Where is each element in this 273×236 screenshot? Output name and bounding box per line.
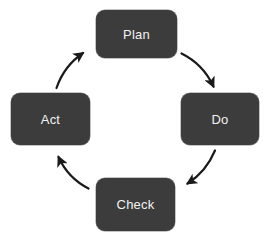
- node-act[interactable]: Act: [11, 93, 90, 145]
- node-do[interactable]: Do: [181, 93, 259, 145]
- arrow-check-to-act: [59, 157, 89, 189]
- node-plan[interactable]: Plan: [96, 10, 177, 58]
- arrow-do-to-check: [188, 151, 216, 184]
- pdca-cycle-diagram: Plan Do Check Act: [0, 0, 273, 236]
- node-do-label: Do: [211, 112, 228, 125]
- node-act-label: Act: [41, 112, 60, 125]
- node-check-label: Check: [117, 198, 155, 211]
- arrow-act-to-plan: [57, 53, 84, 88]
- arrow-plan-to-do: [182, 54, 214, 87]
- node-plan-label: Plan: [123, 27, 150, 40]
- node-check[interactable]: Check: [96, 178, 175, 231]
